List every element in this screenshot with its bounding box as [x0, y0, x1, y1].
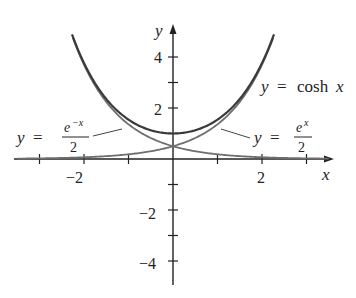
- expneg-label-num-base: e: [64, 120, 70, 135]
- exp-label-y: y: [252, 128, 262, 147]
- exp-label-num-base: e: [296, 120, 302, 135]
- exp-label-num-sup: x: [303, 117, 309, 128]
- y-tick-label-2: 2: [154, 101, 162, 118]
- x-tick-label-neg2: −2: [66, 169, 83, 186]
- exp-label-eq: =: [270, 128, 280, 147]
- cosh-label-x: x: [335, 77, 344, 96]
- cosh-label-eq: =: [277, 77, 287, 96]
- y-axis-arrow-icon: [170, 24, 177, 34]
- exp-half-curve: [17, 38, 273, 159]
- cosh-label-y: y: [259, 77, 269, 96]
- axes: [14, 24, 334, 285]
- expneg-label-num-sup: −x: [72, 117, 84, 128]
- cosh-label-fn: cosh: [297, 77, 329, 96]
- expneg-leader: [93, 129, 122, 136]
- y-tick-label-neg4: −4: [139, 255, 156, 272]
- exp-half-leader: [221, 129, 250, 138]
- y-tick-label-neg2: −2: [139, 205, 156, 222]
- expneg-label-y: y: [15, 128, 25, 147]
- exp-neg-half-annotation: y = e −x 2: [15, 117, 122, 155]
- y-axis-label: y: [153, 21, 163, 40]
- y-tick-label-4: 4: [154, 49, 162, 66]
- exp-label-den: 2: [298, 140, 305, 155]
- expneg-label-eq: =: [33, 128, 43, 147]
- cosh-chart: x y 4 2 −2 −4 −2 2 y = cosh x y = e x 2 …: [0, 0, 356, 298]
- x-tick-label-2: 2: [257, 169, 265, 186]
- exp-neg-half-curve: [73, 38, 329, 159]
- x-axis-label: x: [321, 165, 330, 184]
- expneg-label-den: 2: [70, 140, 77, 155]
- cosh-annotation: y = cosh x: [259, 77, 344, 96]
- exp-half-annotation: y = e x 2: [221, 117, 312, 155]
